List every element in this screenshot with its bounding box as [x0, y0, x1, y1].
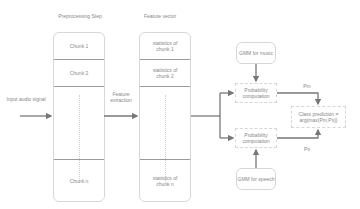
connector-arrows	[0, 0, 360, 209]
